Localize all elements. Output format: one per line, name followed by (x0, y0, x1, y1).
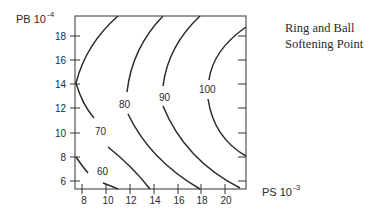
contour-100-upper (209, 27, 246, 80)
x-axis-title: PS 10-3 (262, 183, 301, 198)
x-tick-labels: 8 10 12 14 16 18 20 (81, 195, 232, 206)
x-tick-14: 14 (149, 195, 161, 206)
x-tick-18: 18 (196, 195, 208, 206)
contour-80-lower (128, 114, 200, 189)
contour-90-lower (163, 106, 240, 188)
y-tick-16: 16 (55, 55, 67, 66)
y-tick-labels: 18 16 14 12 10 8 6 (55, 31, 67, 187)
contour-label-70: 70 (95, 126, 107, 137)
x-tick-16: 16 (173, 195, 185, 206)
contour-80-upper (127, 16, 163, 92)
x-tick-8: 8 (81, 195, 87, 206)
contour-70-upper (76, 16, 118, 118)
chart-title: Ring and Ball Softening Point (285, 20, 363, 52)
contour-90-upper (163, 16, 200, 86)
contour-70-lower (108, 147, 150, 189)
contour-labels: 60 70 80 90 100 (95, 84, 216, 177)
y-axis-title-exponent: -4 (47, 10, 55, 19)
contour-label-80: 80 (119, 99, 131, 110)
y-axis-title: PB 10-4 (16, 10, 55, 25)
contour-60-upper (76, 157, 88, 173)
chart-title-line-1: Ring and Ball (285, 20, 363, 36)
x-tick-20: 20 (220, 195, 232, 206)
contour-60-lower (103, 183, 118, 189)
x-axis-title-exponent: -3 (293, 183, 301, 192)
y-tick-18: 18 (55, 31, 67, 42)
y-tick-14: 14 (55, 79, 67, 90)
y-axis-title-base: PB 10 (16, 13, 46, 25)
y-tick-6: 6 (60, 176, 66, 187)
y-tick-10: 10 (55, 128, 67, 139)
y-tick-12: 12 (55, 103, 67, 114)
contour-label-90: 90 (159, 92, 171, 103)
y-tick-8: 8 (60, 152, 66, 163)
x-tick-12: 12 (125, 195, 137, 206)
x-axis-title-base: PS 10 (262, 186, 292, 198)
chart-title-line-2: Softening Point (285, 36, 363, 52)
contour-label-60: 60 (97, 166, 109, 177)
y-axis-ticks-right (238, 36, 246, 181)
contour-label-100: 100 (199, 84, 216, 95)
x-tick-10: 10 (102, 195, 114, 206)
